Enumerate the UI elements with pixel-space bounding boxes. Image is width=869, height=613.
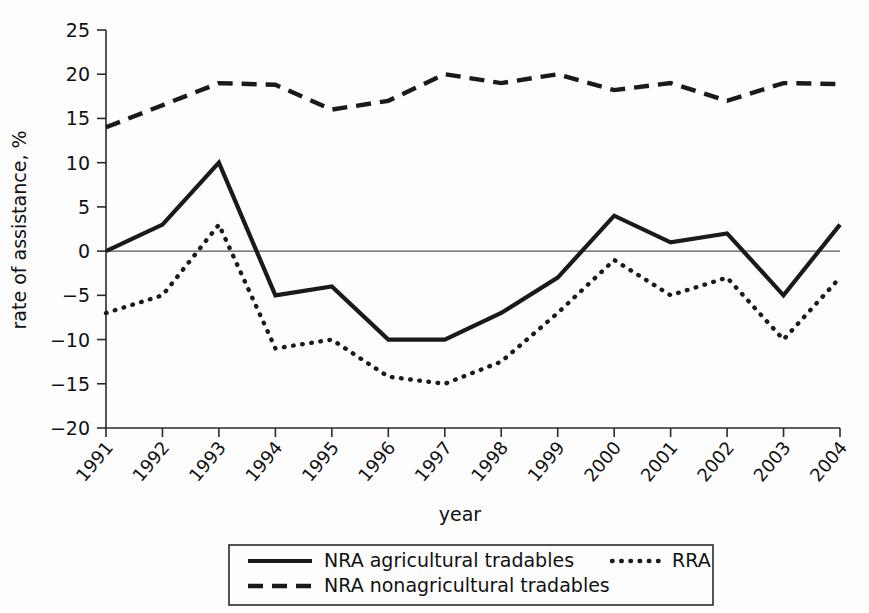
y-tick-label: 0 xyxy=(78,240,90,262)
x-tick-label: 2003 xyxy=(749,437,795,486)
y-tick-label: 20 xyxy=(66,63,90,85)
data-series-layer xyxy=(106,74,840,384)
y-tick-label: 15 xyxy=(66,107,90,129)
legend-label: NRA agricultural tradables xyxy=(324,549,574,571)
x-tick-label: 2004 xyxy=(806,437,852,486)
chart-figure: rate of assistance, % 2520151050−5−10−15… xyxy=(0,0,869,613)
y-axis-ticks: 2520151050−5−10−15−20 xyxy=(50,19,106,439)
x-axis-label-text: year xyxy=(439,503,482,525)
x-tick-label: 1995 xyxy=(297,437,343,486)
series-line-dotted xyxy=(106,225,840,384)
x-tick-label: 2002 xyxy=(693,437,739,486)
y-axis-label-text: rate of assistance, % xyxy=(8,130,30,329)
y-tick-label: 10 xyxy=(66,152,90,174)
x-tick-label: 2000 xyxy=(580,437,626,486)
x-tick-label: 1992 xyxy=(128,437,174,486)
x-tick-label: 1999 xyxy=(523,437,569,486)
x-tick-label: 1991 xyxy=(72,437,118,486)
x-tick-label: 1998 xyxy=(467,437,513,486)
y-tick-label: −15 xyxy=(50,373,90,395)
x-tick-label: 1993 xyxy=(184,437,230,486)
y-tick-label: −5 xyxy=(62,284,90,306)
x-tick-label: 1994 xyxy=(241,437,287,486)
x-tick-label: 2001 xyxy=(636,437,682,486)
series-line-dashed xyxy=(106,74,840,127)
y-tick-label: 5 xyxy=(78,196,90,218)
x-axis-ticks: 1991199219931994199519961997199819992000… xyxy=(72,428,852,486)
y-tick-label: 25 xyxy=(66,19,90,41)
x-tick-label: 1997 xyxy=(410,437,456,486)
y-axis-label: rate of assistance, % xyxy=(8,130,30,329)
line-chart-canvas: rate of assistance, % 2520151050−5−10−15… xyxy=(0,0,869,613)
y-tick-label: −20 xyxy=(50,417,90,439)
legend-label: RRA xyxy=(672,549,711,571)
legend-label: NRA nonagricultural tradables xyxy=(324,574,610,596)
chart-legend: NRA agricultural tradablesNRA nonagricul… xyxy=(229,545,713,605)
y-tick-label: −10 xyxy=(50,329,90,351)
legend-entries: NRA agricultural tradablesNRA nonagricul… xyxy=(248,549,711,596)
x-tick-label: 1996 xyxy=(354,437,400,486)
